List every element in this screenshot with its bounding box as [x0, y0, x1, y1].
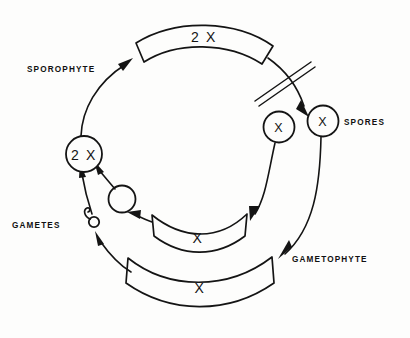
meiosis-double-slash-icon [255, 62, 315, 106]
meiosis-arrow [255, 58, 315, 117]
gametophyte-to-egg-arrow [127, 210, 152, 222]
zygote-to-sporophyte-arrowhead [118, 58, 133, 71]
gametophyte-to-sperm-arrow [95, 231, 131, 272]
gametophyte-inner-band-ploidy: X [193, 230, 204, 246]
spore-left-circle: X [264, 112, 295, 143]
spore-right-circle-ploidy: X [318, 115, 328, 129]
gametophyte-label: GAMETOPHYTE [292, 255, 368, 264]
sporophyte-band-ploidy: 2 X [191, 29, 217, 45]
gametes-label: GAMETES [12, 221, 61, 230]
sperm-cell-flagellum [85, 208, 90, 219]
spore-to-gametophyte-inner-arrow [249, 143, 275, 221]
zygote-circle: 2 X [66, 136, 102, 172]
spores-label: SPORES [344, 118, 385, 127]
gametophyte-outer-band-ploidy: X [195, 280, 206, 296]
gametophyte-to-sperm-line [100, 241, 131, 272]
gametophyte-inner-band: X [152, 214, 247, 252]
egg-cell-icon [109, 186, 136, 213]
meiosis-arrow-line [268, 58, 304, 106]
zygote-to-sporophyte-line [81, 64, 126, 136]
egg-cell-shape [109, 186, 136, 213]
spore-to-gametophyte-inner-line [255, 143, 275, 214]
sporophyte-label: SPOROPHYTE [27, 65, 95, 74]
spore-to-gametophyte-outer-line [285, 137, 321, 254]
spore-to-gametophyte-outer-arrow [278, 137, 321, 259]
spore-left-circle-ploidy: X [274, 121, 284, 135]
sporophyte-band: 2 X [136, 25, 273, 64]
zygote-circle-ploidy: 2 X [71, 147, 97, 163]
spore-to-gametophyte-inner-arrowhead [249, 206, 260, 221]
gametophyte-to-sperm-arrowhead [95, 231, 104, 246]
gametophyte-outer-band: X [126, 257, 274, 307]
spore-right-circle: X [308, 106, 339, 137]
sperm-cell-icon [85, 208, 100, 227]
life-cycle-diagram: 2 X X X SPORES [0, 0, 410, 338]
